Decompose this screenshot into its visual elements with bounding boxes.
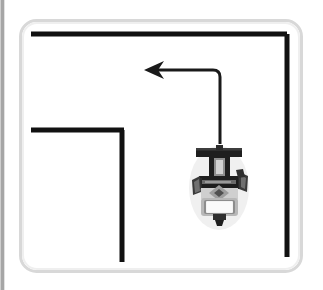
wall-inner-vertical	[120, 130, 125, 262]
maze-diagram-svg	[0, 0, 323, 290]
neck	[209, 157, 230, 178]
wall-inner-horizontal	[31, 128, 124, 133]
canvas-background	[0, 0, 323, 290]
wall-right	[285, 34, 290, 257]
left-edge-gutter-line	[0, 0, 5, 290]
wall-top	[31, 32, 287, 37]
scene-canvas	[0, 0, 323, 290]
front-module	[201, 198, 238, 216]
